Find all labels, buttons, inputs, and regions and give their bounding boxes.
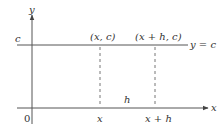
y-axis-label: y (28, 4, 35, 15)
point-label-x-c: (x, c) (90, 31, 115, 42)
tick-label-x-plus-h: x + h (145, 113, 172, 124)
equation-label: y = c (189, 39, 216, 50)
tick-label-x: x (97, 113, 103, 124)
x-axis-label: x (211, 102, 217, 113)
interval-h-label: h (124, 94, 130, 105)
level-c-label: c (15, 33, 21, 44)
constant-function-diagram: y c (x, c) (x + h, c) y = c 0 x x + h h … (0, 0, 223, 134)
origin-label: 0 (24, 113, 30, 124)
point-label-x-plus-h-c: (x + h, c) (135, 31, 182, 42)
